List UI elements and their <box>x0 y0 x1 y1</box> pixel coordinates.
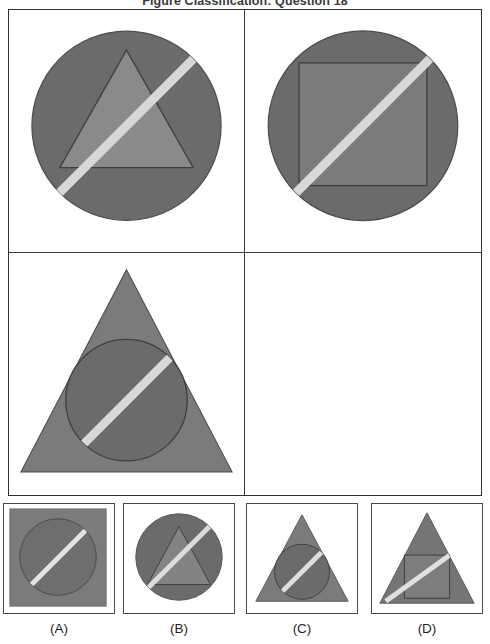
option-d-label: (D) <box>371 621 483 636</box>
option-b-label: (B) <box>123 621 235 636</box>
figure-circle-square-striped <box>245 10 481 252</box>
option-a-figure-svg <box>4 504 114 613</box>
answer-option-c[interactable]: (C) <box>246 503 358 636</box>
matrix-cell-row1-col2 <box>245 10 481 253</box>
option-d-frame[interactable] <box>371 503 483 614</box>
option-b-figure-svg <box>124 504 234 613</box>
figure-triangle-circle-striped <box>9 253 244 496</box>
option-c-frame[interactable] <box>246 503 358 614</box>
matrix-cell-row2-col2-empty <box>245 253 481 496</box>
matrix-cell-row2-col1 <box>9 253 245 496</box>
matrix-cell-row1-col1 <box>9 10 245 253</box>
option-d-figure-svg <box>372 504 482 613</box>
answer-options: (A) (B) <box>0 503 490 644</box>
option-c-figure-svg <box>247 504 357 613</box>
page-title: Figure Classification: Question 18 <box>0 0 490 8</box>
option-a-label: (A) <box>3 621 115 636</box>
answer-option-b[interactable]: (B) <box>123 503 235 636</box>
figure-circle-triangle-striped <box>9 10 244 252</box>
answer-option-d[interactable]: (D) <box>371 503 483 636</box>
option-a-frame[interactable] <box>3 503 115 614</box>
option-b-frame[interactable] <box>123 503 235 614</box>
missing-figure-placeholder <box>245 253 481 496</box>
answer-option-a[interactable]: (A) <box>3 503 115 636</box>
option-c-label: (C) <box>246 621 358 636</box>
matrix-figure-svg <box>9 253 244 496</box>
matrix-figure-svg <box>9 10 244 252</box>
matrix-figure-svg <box>245 10 481 252</box>
figure-matrix <box>8 9 482 496</box>
